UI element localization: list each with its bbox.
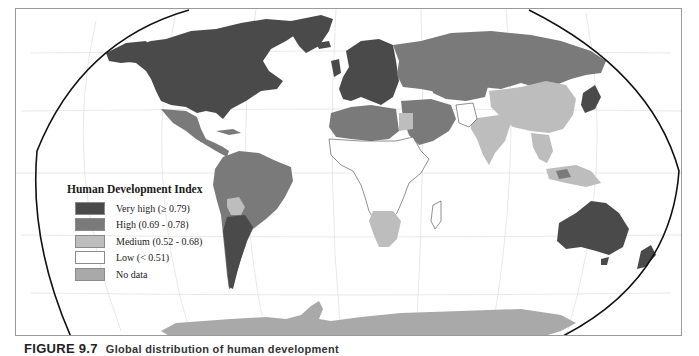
figure-label: FIGURE 9.7 — [24, 341, 98, 356]
india — [471, 115, 511, 165]
swatch-no-data — [75, 268, 105, 281]
legend-label: Low (< 0.51) — [116, 252, 169, 263]
map-frame: Human Development Index Very high (≥ 0.7… — [15, 8, 682, 336]
world-map — [16, 9, 682, 336]
southeast-asia — [531, 133, 553, 163]
north-america — [119, 19, 301, 119]
figure-caption: FIGURE 9.7Global distribution of human d… — [24, 341, 339, 356]
mexico — [161, 109, 229, 157]
europe — [339, 39, 399, 105]
legend-item-medium: Medium (0.52 - 0.68) — [67, 233, 207, 250]
legend-item-no-data: No data — [67, 266, 207, 283]
figure-caption-text: Global distribution of human development — [106, 343, 339, 355]
russia — [393, 31, 606, 93]
legend-item-very-high: Very high (≥ 0.79) — [67, 200, 207, 217]
south-america — [213, 151, 293, 289]
legend-label: Very high (≥ 0.79) — [116, 203, 190, 214]
japan — [581, 85, 601, 113]
antarctica — [161, 301, 576, 336]
legend-item-high: High (0.69 - 0.78) — [67, 217, 207, 234]
australia — [557, 201, 629, 255]
southern-africa — [369, 211, 401, 247]
swatch-very-high — [75, 202, 105, 215]
legend-label: No data — [116, 269, 147, 280]
north-africa — [329, 105, 399, 141]
legend-item-low: Low (< 0.51) — [67, 250, 207, 267]
swatch-high — [75, 218, 105, 231]
legend: Human Development Index Very high (≥ 0.7… — [67, 183, 207, 283]
legend-label: High (0.69 - 0.78) — [116, 219, 189, 230]
legend-title: Human Development Index — [67, 183, 207, 195]
swatch-medium — [75, 235, 105, 248]
legend-label: Medium (0.52 - 0.68) — [116, 236, 202, 247]
swatch-low — [75, 251, 105, 264]
